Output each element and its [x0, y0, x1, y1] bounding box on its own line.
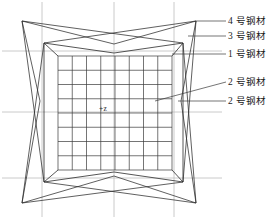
callout-label-3: 3 号钢材 — [228, 32, 266, 42]
inner-rim-top — [44, 43, 183, 53]
brace-top-left — [22, 21, 183, 43]
brace-bottom-right — [44, 182, 196, 203]
grid-panel — [58, 56, 172, 170]
callout-label-2-upper: 2 号钢材 — [228, 78, 266, 88]
inner-rim-bottom — [44, 172, 183, 182]
brace-bottom-left — [22, 182, 183, 203]
callout-label-2-lower: 2 号钢材 — [228, 97, 266, 107]
center-axis-marker: +z — [99, 104, 107, 113]
brace-left-lower — [22, 43, 44, 203]
callout-label-4: 4 号钢材 — [228, 17, 266, 27]
brace-right-lower — [183, 43, 196, 203]
brace-left-upper — [22, 21, 44, 182]
inner-box-rim — [44, 43, 183, 182]
steel-frame-diagram: +z 4 号钢材 3 号钢材 1 号钢材 2 号钢材 2 号钢材 — [0, 0, 278, 219]
callout-label-1: 1 号钢材 — [228, 50, 266, 60]
